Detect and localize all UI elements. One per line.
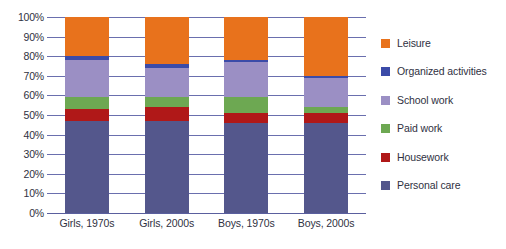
x-axis-tick-label: Boys, 1970s: [207, 217, 287, 229]
bar-segment[interactable]: [65, 56, 109, 60]
bar-segment[interactable]: [224, 60, 268, 62]
bar-segment[interactable]: [304, 107, 348, 113]
legend-swatch-icon: [381, 153, 390, 162]
bar-segment[interactable]: [224, 17, 268, 60]
bar-segment[interactable]: [224, 123, 268, 213]
x-axis-tick-label: Girls, 1970s: [47, 217, 127, 229]
y-axis-tick-label: 90%: [4, 32, 44, 43]
legend-label: Organized activities: [397, 66, 487, 77]
bar-segment[interactable]: [224, 113, 268, 123]
legend-swatch-icon: [381, 67, 390, 76]
bar-segment[interactable]: [65, 109, 109, 121]
x-axis-tick-label: Girls, 2000s: [127, 217, 207, 229]
x-axis: Girls, 1970sGirls, 2000sBoys, 1970sBoys,…: [47, 215, 366, 235]
bar-segment[interactable]: [145, 121, 189, 213]
bar-segment[interactable]: [224, 97, 268, 113]
bar-segment[interactable]: [145, 68, 189, 97]
legend-swatch-icon: [381, 181, 390, 190]
y-axis-tick-label: 60%: [4, 90, 44, 101]
x-axis-tick-label: Boys, 2000s: [286, 217, 366, 229]
legend-item[interactable]: Paid work: [381, 122, 442, 136]
legend-swatch-icon: [381, 39, 390, 48]
bar-segment[interactable]: [224, 62, 268, 97]
y-axis-tick-label: 0%: [4, 208, 44, 219]
bar-segment[interactable]: [65, 121, 109, 213]
legend-item[interactable]: Housework: [381, 150, 449, 164]
plot-area: [47, 17, 366, 213]
bar-segment[interactable]: [65, 60, 109, 97]
bar-segment[interactable]: [304, 17, 348, 76]
bar-segment[interactable]: [304, 113, 348, 123]
bar-segment[interactable]: [145, 107, 189, 121]
y-axis-tick-label: 30%: [4, 149, 44, 160]
bar-column[interactable]: [304, 17, 348, 213]
legend-item[interactable]: Personal care: [381, 179, 460, 193]
legend-label: Personal care: [397, 180, 460, 191]
y-axis-tick-label: 70%: [4, 71, 44, 82]
gridline: [47, 213, 366, 214]
y-axis-tick-label: 80%: [4, 51, 44, 62]
legend-item[interactable]: Leisure: [381, 36, 431, 50]
y-axis-tick-label: 50%: [4, 110, 44, 121]
y-axis-tick-label: 20%: [4, 169, 44, 180]
bar-column[interactable]: [65, 17, 109, 213]
legend-item[interactable]: School work: [381, 93, 453, 107]
bar-segment[interactable]: [304, 123, 348, 213]
bar-segment[interactable]: [304, 76, 348, 78]
legend-label: Leisure: [397, 38, 431, 49]
legend-item[interactable]: Organized activities: [381, 65, 487, 79]
bar-segment[interactable]: [304, 78, 348, 107]
legend-swatch-icon: [381, 124, 390, 133]
legend-label: Paid work: [397, 123, 442, 134]
y-axis-tick-label: 10%: [4, 188, 44, 199]
y-axis-tick-label: 40%: [4, 130, 44, 141]
bar-segment[interactable]: [65, 17, 109, 56]
bar-segment[interactable]: [145, 64, 189, 68]
legend-label: School work: [397, 95, 453, 106]
y-axis-tick-label: 100%: [4, 12, 44, 23]
legend-swatch-icon: [381, 96, 390, 105]
bar-segment[interactable]: [145, 97, 189, 107]
y-axis: 0%10%20%30%40%50%60%70%80%90%100%: [0, 17, 44, 213]
bar-column[interactable]: [145, 17, 189, 213]
bar-column[interactable]: [224, 17, 268, 213]
bar-segment[interactable]: [65, 97, 109, 109]
bar-segment[interactable]: [145, 17, 189, 64]
legend-label: Housework: [397, 152, 449, 163]
stacked-bar-chart: 0%10%20%30%40%50%60%70%80%90%100% Girls,…: [0, 0, 506, 249]
